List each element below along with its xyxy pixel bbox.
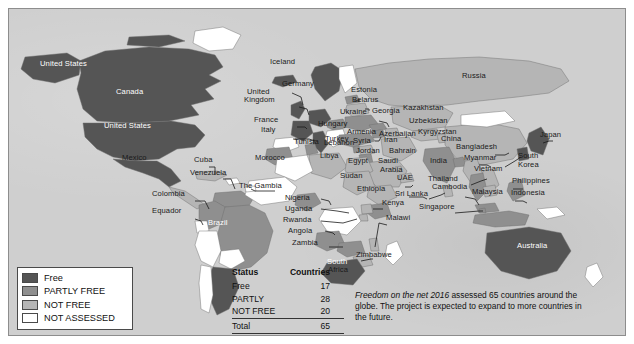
map-label-italy: Italy: [261, 126, 275, 134]
country-indonesia: [473, 211, 529, 227]
stats-tbody: Free17PARTLY28NOT FREE20: [232, 279, 344, 318]
map-label-syria: Syria: [353, 137, 371, 145]
stats-cell-countries: 28: [282, 292, 344, 305]
map-legend: Free PARTLY FREE NOT FREE NOT ASSESSED: [17, 267, 133, 330]
map-label-brazil: Brazil: [208, 219, 228, 227]
legend-item-partly-free: PARTLY FREE: [22, 285, 128, 299]
country-scandinavia: [311, 63, 343, 101]
country-canada: [77, 47, 223, 123]
stats-cell-countries: 17: [282, 279, 344, 292]
map-label-lebanon: Lebanon: [324, 139, 354, 147]
map-label-estonia: Estonia: [351, 86, 377, 94]
map-label-vietnam: Vietnam: [474, 165, 502, 173]
map-label-alaska: United States: [40, 60, 87, 68]
map-label-zambia: Zambia: [292, 239, 318, 247]
map-label-iceland: Iceland: [270, 58, 295, 66]
stats-total-row: Total 65: [232, 318, 344, 333]
status-counts-table: Status Countries Free17PARTLY28NOT FREE2…: [232, 266, 344, 334]
table-row: NOT FREE20: [232, 305, 344, 318]
map-label-angola: Angola: [288, 227, 312, 235]
stats-table: Status Countries Free17PARTLY28NOT FREE2…: [232, 266, 344, 334]
map-label-egypt: Egypt: [348, 157, 368, 165]
map-label-canada: Canada: [116, 88, 143, 96]
map-label-southkorea2: Korea: [518, 161, 539, 169]
map-label-japan: Japan: [540, 131, 561, 139]
map-label-equador: Equador: [152, 207, 181, 215]
legend-item-not-assessed: NOT ASSESSED: [22, 312, 128, 326]
map-label-kenya: Kenya: [382, 199, 404, 207]
map-label-libya: Libya: [320, 152, 339, 160]
map-label-colombia: Colombia: [152, 190, 185, 198]
map-label-ukraine: Ukraine: [340, 108, 367, 116]
caption-emphasis: Freedom on the net 2016: [355, 290, 449, 300]
map-label-russia: Russia: [462, 72, 486, 80]
stats-cell-status: NOT FREE: [232, 305, 282, 318]
stats-header-row: Status Countries: [232, 266, 344, 279]
map-label-myanmar: Myanmar: [464, 154, 496, 162]
country-chile: [199, 265, 213, 313]
country-australia: [485, 227, 571, 279]
legend-swatch-free: [22, 273, 38, 283]
map-label-georgia: Georgia: [372, 107, 400, 115]
map-label-morocco: Morocco: [255, 154, 285, 162]
legend-item-free: Free: [22, 271, 128, 285]
stats-cell-countries: 20: [282, 305, 344, 318]
map-label-malaysia: Malaysia: [472, 188, 503, 196]
map-label-bahrain: Bahrain: [389, 147, 416, 155]
stats-header-countries: Countries: [282, 266, 344, 279]
map-label-france: France: [254, 116, 278, 124]
map-label-uganda: Uganda: [285, 205, 312, 213]
map-label-germany: Germany: [282, 80, 314, 88]
map-label-thegambia: The Gambia: [239, 182, 282, 190]
stats-header-status: Status: [232, 266, 282, 279]
map-label-uzbekistan: Uzbekistan: [409, 117, 448, 125]
country-russia: [355, 57, 569, 107]
country-uganda: [361, 204, 373, 214]
map-label-hungary: Hungary: [318, 120, 347, 128]
map-label-belarus: Belarus: [352, 96, 378, 104]
map-label-sudan: Sudan: [340, 172, 362, 180]
country-greenland: [193, 27, 241, 51]
legend-swatch-not-assessed: [22, 313, 38, 323]
map-label-jordan: Jordan: [356, 147, 380, 155]
stats-cell-status: Free: [232, 279, 282, 292]
legend-item-not-free: NOT FREE: [22, 298, 128, 312]
map-label-singapore: Singapore: [419, 203, 455, 211]
map-label-malawi: Malawi: [386, 214, 410, 222]
country-mongolia: [461, 111, 515, 127]
map-label-cambodia: Cambodia: [432, 183, 467, 191]
map-label-bangladesh: Bangladesh: [456, 143, 497, 151]
map-label-tunisia: Tunisia: [294, 138, 319, 146]
stats-tfoot: Total 65: [232, 318, 344, 333]
map-label-zimbabwe: Zimbabwe: [356, 251, 392, 259]
stats-thead: Status Countries: [232, 266, 344, 279]
legend-label-not-assessed: NOT ASSESSED: [44, 313, 115, 323]
map-label-ethiopia: Ethiopia: [357, 185, 385, 193]
map-label-indonesia: Indonesia: [511, 189, 545, 197]
country-mexico: [113, 159, 181, 187]
map-label-usa: United States: [104, 122, 151, 130]
map-label-australia: Australia: [517, 242, 547, 250]
table-row: PARTLY28: [232, 292, 344, 305]
country-canada-arctic: [127, 35, 185, 47]
country-png: [537, 207, 565, 219]
stats-total-label: Total: [232, 318, 282, 333]
map-label-iran: Iran: [384, 136, 398, 144]
map-label-venezuela: Venezuela: [190, 169, 226, 177]
map-label-mexico: Mexico: [122, 154, 147, 162]
map-label-cuba: Cuba: [194, 156, 213, 164]
map-label-philippines: Philippines: [512, 177, 550, 185]
legend-label-partly-free: PARTLY FREE: [44, 286, 105, 296]
map-label-rwanda: Rwanda: [283, 216, 311, 224]
map-label-india: India: [430, 157, 447, 165]
legend-swatch-not-free: [22, 300, 38, 310]
legend-swatch-partly-free: [22, 286, 38, 296]
stats-total-value: 65: [282, 318, 344, 333]
map-label-nigeria: Nigeria: [285, 194, 310, 202]
infographic-root: United StatesCanadaUnited StatesMexicoCu…: [0, 0, 634, 344]
chart-caption: Freedom on the net 2016 assessed 65 coun…: [355, 290, 591, 324]
country-peru: [195, 231, 221, 267]
country-singapore: [479, 208, 486, 213]
legend-label-not-free: NOT FREE: [44, 300, 90, 310]
map-label-uae: UAE: [397, 174, 413, 182]
